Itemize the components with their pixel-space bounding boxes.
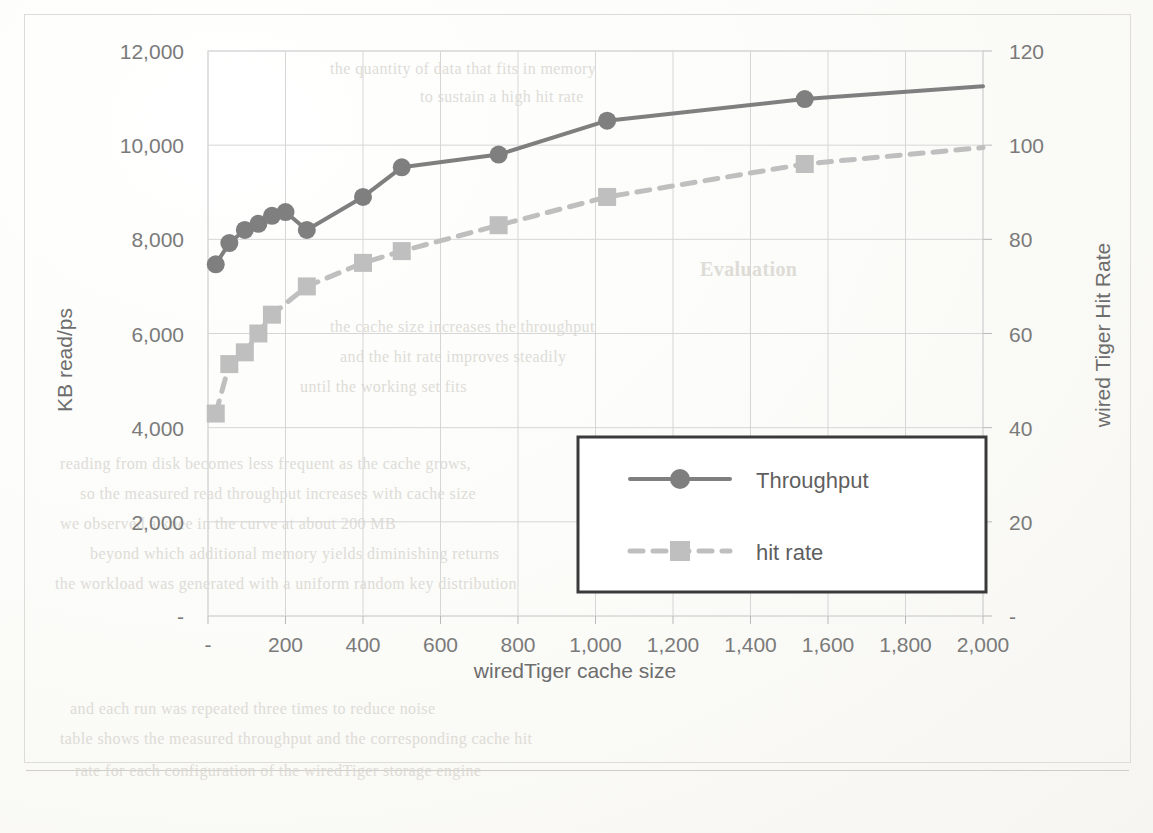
data-point-marker[interactable] [249, 325, 267, 343]
x-tick-label: 1,800 [879, 633, 932, 656]
series-line [216, 86, 983, 264]
y2-tick-label: - [1009, 605, 1016, 628]
data-point-marker[interactable] [354, 254, 372, 272]
data-point-marker[interactable] [393, 242, 411, 260]
y-axis-title: KB read/ps [53, 308, 76, 412]
data-point-marker[interactable] [298, 221, 316, 239]
x-axis-title: wiredTiger cache size [473, 659, 676, 682]
data-point-marker[interactable] [490, 216, 508, 234]
data-point-marker[interactable] [207, 255, 225, 273]
y-axis-tick-labels: -2,0004,0006,0008,00010,00012,000 [120, 40, 184, 628]
x-tick-label: 200 [268, 633, 303, 656]
series-throughput[interactable] [207, 86, 983, 273]
legend-marker [670, 469, 690, 489]
data-point-marker[interactable] [277, 203, 295, 221]
data-point-marker[interactable] [354, 188, 372, 206]
y2-tick-label: 40 [1009, 417, 1032, 440]
y2-tick-label: 60 [1009, 323, 1032, 346]
y2-tick-label: 20 [1009, 511, 1032, 534]
y2-tick-label: 100 [1009, 134, 1044, 157]
x-tick-label: 1,600 [802, 633, 855, 656]
x-axis-tick-marks [208, 616, 983, 624]
y2-axis-tick-labels: -20406080100120 [1009, 40, 1044, 628]
data-point-marker[interactable] [490, 146, 508, 164]
data-point-marker[interactable] [393, 158, 411, 176]
data-point-marker[interactable] [220, 355, 238, 373]
data-point-marker[interactable] [598, 112, 616, 130]
data-point-marker[interactable] [298, 277, 316, 295]
x-tick-label: 1,200 [647, 633, 700, 656]
y2-tick-label: 80 [1009, 228, 1032, 251]
series-line [216, 148, 983, 414]
y-tick-label: 12,000 [120, 40, 184, 63]
legend-marker [670, 541, 690, 561]
y-tick-label: 10,000 [120, 134, 184, 157]
y-tick-label: 2,000 [131, 511, 184, 534]
data-point-marker[interactable] [207, 405, 225, 423]
chart-canvas: -2,0004,0006,0008,00010,00012,000 -20406… [0, 0, 1153, 833]
y-tick-label: 4,000 [131, 417, 184, 440]
y2-tick-label: 120 [1009, 40, 1044, 63]
legend-border [578, 437, 986, 592]
legend-entry-label[interactable]: hit rate [756, 540, 823, 565]
data-point-marker[interactable] [598, 188, 616, 206]
x-tick-label: 600 [423, 633, 458, 656]
legend-entry-label[interactable]: Throughput [756, 468, 869, 493]
y-tick-label: 8,000 [131, 228, 184, 251]
x-tick-label: 1,000 [569, 633, 622, 656]
data-point-marker[interactable] [236, 343, 254, 361]
data-point-marker[interactable] [796, 155, 814, 173]
y-tick-label: 6,000 [131, 323, 184, 346]
chart-legend[interactable]: Throughputhit rate [578, 437, 986, 592]
data-point-marker[interactable] [220, 234, 238, 252]
data-point-marker[interactable] [796, 90, 814, 108]
chart-figure: -2,0004,0006,0008,00010,00012,000 -20406… [0, 0, 1153, 833]
x-tick-label: 1,400 [724, 633, 777, 656]
series-hit-rate[interactable] [207, 148, 983, 423]
x-tick-label: 800 [500, 633, 535, 656]
data-point-marker[interactable] [263, 306, 281, 324]
x-axis-tick-labels: -2004006008001,0001,2001,4001,6001,8002,… [205, 633, 1010, 656]
x-tick-label: 400 [345, 633, 380, 656]
x-tick-label: 2,000 [957, 633, 1010, 656]
y2-axis-title: wired Tiger Hit Rate [1091, 243, 1114, 428]
y-tick-label: - [177, 605, 184, 628]
x-tick-label: - [205, 633, 212, 656]
